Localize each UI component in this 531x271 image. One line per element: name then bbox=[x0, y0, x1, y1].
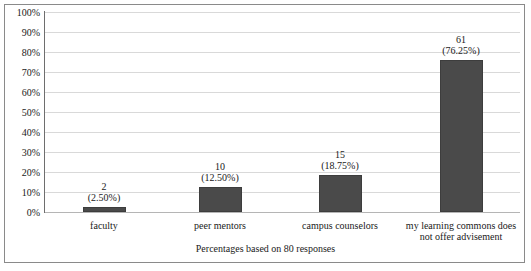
x-category-label-2: campus counselors bbox=[270, 220, 410, 231]
bar-percent-3: (76.25%) bbox=[391, 45, 531, 56]
bar-count-3: 61 bbox=[391, 34, 531, 45]
x-category-label-1-line-0: peer mentors bbox=[150, 220, 290, 231]
bar-percent-0: (2.50%) bbox=[34, 192, 174, 203]
y-tick-label-70pct: 70% bbox=[0, 67, 40, 78]
y-tick-label-0pct: 0% bbox=[0, 207, 40, 218]
bar-3[interactable] bbox=[440, 60, 483, 213]
y-tick-label-20pct: 20% bbox=[0, 167, 40, 178]
y-tick-label-40pct: 40% bbox=[0, 127, 40, 138]
x-category-label-2-line-0: campus counselors bbox=[270, 220, 410, 231]
bar-value-label-3: 61(76.25%) bbox=[391, 34, 531, 56]
gridline-100pct bbox=[45, 12, 520, 13]
bar-percent-1: (12.50%) bbox=[150, 172, 290, 183]
y-tick-label-30pct: 30% bbox=[0, 147, 40, 158]
bar-2[interactable] bbox=[319, 175, 362, 213]
x-category-label-3-line-0: my learning commons does bbox=[391, 220, 531, 231]
gridline-0pct bbox=[45, 212, 520, 213]
x-category-label-3-line-1: not offer advisement bbox=[391, 231, 531, 242]
y-tick-label-80pct: 80% bbox=[0, 47, 40, 58]
bar-value-label-2: 15(18.75%) bbox=[270, 149, 410, 171]
y-tick-label-50pct: 50% bbox=[0, 107, 40, 118]
bar-1[interactable] bbox=[199, 187, 242, 212]
bar-0[interactable] bbox=[83, 207, 126, 212]
x-category-label-3: my learning commons doesnot offer advise… bbox=[391, 220, 531, 242]
y-tick-label-60pct: 60% bbox=[0, 87, 40, 98]
x-axis-caption: Percentages based on 80 responses bbox=[0, 243, 531, 254]
bar-chart-figure: 0%10%20%30%40%50%60%70%80%90%100% Percen… bbox=[0, 0, 531, 271]
x-category-label-1: peer mentors bbox=[150, 220, 290, 231]
bar-count-1: 10 bbox=[150, 161, 290, 172]
y-tick-label-100pct: 100% bbox=[0, 7, 40, 18]
bar-count-2: 15 bbox=[270, 149, 410, 160]
bar-value-label-0: 2(2.50%) bbox=[34, 181, 174, 203]
bar-percent-2: (18.75%) bbox=[270, 160, 410, 171]
y-tick-label-90pct: 90% bbox=[0, 27, 40, 38]
bar-value-label-1: 10(12.50%) bbox=[150, 161, 290, 183]
